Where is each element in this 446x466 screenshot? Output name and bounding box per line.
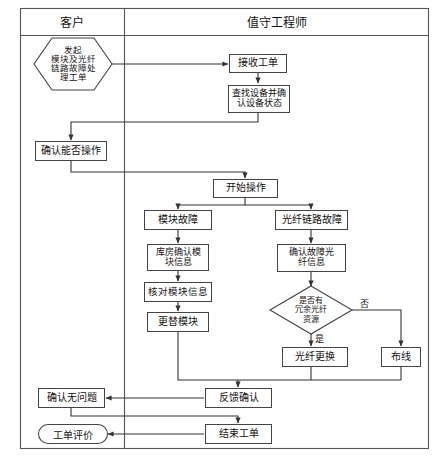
node-cabling: 布线	[381, 347, 421, 367]
node-feedback-confirm-label: 反馈确认	[219, 393, 259, 404]
node-fiber-replacement-label: 光纤更换	[295, 352, 335, 363]
node-ticket-evaluation-label: 工单评价	[53, 427, 93, 442]
node-close-ticket: 结束工单	[205, 424, 272, 444]
node-module-fault: 模块故障	[144, 210, 212, 230]
node-module-fault-label: 模块故障	[158, 215, 198, 226]
node-start-operation-label: 开始操作	[226, 183, 266, 194]
edge-label-yes: 是	[315, 332, 324, 345]
flowchart-canvas: 客户 值守工程师 发起 模块及光纤 链路故障处 理工单 接收工单 查找设备并确 …	[0, 0, 446, 466]
node-receive-ticket-label: 接收工单	[238, 58, 278, 69]
edge-label-no: 否	[360, 297, 369, 310]
node-fiber-replacement: 光纤更换	[282, 347, 348, 367]
node-confirm-no-issue: 确认无问题	[38, 388, 105, 408]
node-initiate-ticket: 发起 模块及光纤 链路故障处 理工单	[34, 38, 112, 90]
node-replace-module-label: 更替模块	[158, 317, 198, 328]
edge-label-no-text: 否	[360, 299, 369, 309]
node-warehouse-confirm-module-info: 库房确认模 块信息	[147, 244, 209, 271]
node-replace-module: 更替模块	[147, 312, 209, 332]
node-feedback-confirm: 反馈确认	[205, 388, 272, 408]
node-verify-module-info-label: 核对模块信息	[148, 287, 208, 297]
node-confirm-faulty-fiber-info-label: 确认故障光 纤信息	[289, 248, 334, 267]
node-confirm-can-operate-label: 确认能否操作	[41, 146, 101, 157]
node-initiate-ticket-label: 发起 模块及光纤 链路故障处 理工单	[51, 46, 96, 82]
lane-header-customer: 客户	[20, 9, 124, 35]
node-fiber-link-fault: 光纤链路故障	[275, 210, 348, 230]
node-close-ticket-label: 结束工单	[219, 429, 259, 440]
node-ticket-evaluation: 工单评价	[38, 424, 108, 444]
lane-header-engineer: 值守工程师	[125, 9, 428, 35]
node-verify-module-info: 核对模块信息	[144, 282, 212, 302]
node-warehouse-confirm-module-info-label: 库房确认模 块信息	[156, 248, 201, 267]
node-confirm-can-operate: 确认能否操作	[35, 141, 107, 161]
node-cabling-label: 布线	[391, 352, 411, 363]
node-has-redundant-fiber: 是否有 冗余光纤 资源	[272, 286, 350, 334]
node-confirm-faulty-fiber-info: 确认故障光 纤信息	[277, 244, 346, 272]
lane-header-customer-label: 客户	[60, 13, 84, 31]
node-receive-ticket: 接收工单	[229, 54, 287, 73]
edge-label-yes-text: 是	[315, 334, 324, 344]
node-fiber-link-fault-label: 光纤链路故障	[282, 215, 342, 226]
node-has-redundant-fiber-label: 是否有 冗余光纤 资源	[295, 296, 327, 324]
lane-header-engineer-label: 值守工程师	[247, 13, 307, 31]
node-locate-device-confirm-state-label: 查找设备并确 认设备状态	[232, 89, 286, 108]
node-start-operation: 开始操作	[213, 179, 278, 198]
node-locate-device-confirm-state: 查找设备并确 认设备状态	[228, 85, 290, 113]
node-confirm-no-issue-label: 确认无问题	[47, 393, 97, 404]
